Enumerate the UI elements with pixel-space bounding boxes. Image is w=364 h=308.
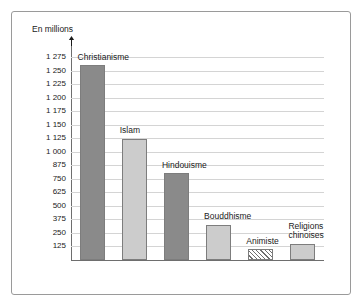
bar-label: Bouddhisme — [204, 212, 251, 222]
bar-label: Hindouisme — [162, 161, 207, 171]
gridline — [71, 246, 324, 247]
gridline — [71, 152, 324, 153]
y-axis-tick-label: 625 — [53, 188, 66, 196]
y-axis-tick-label: 1 250 — [46, 67, 66, 75]
y-axis-tick-label: 1 225 — [46, 80, 66, 88]
chart-frame: En millions 1 2751 2501 2251 2001 1751 1… — [11, 11, 351, 295]
bar-label: Religionschinoises — [288, 222, 323, 241]
y-axis-tick-label: 1 125 — [46, 134, 66, 142]
gridline — [71, 98, 324, 99]
y-axis-tick-label: 750 — [53, 175, 66, 183]
gridline — [71, 179, 324, 180]
gridline — [71, 219, 324, 220]
x-axis-baseline — [71, 260, 324, 261]
y-axis-tick-label: 1 150 — [46, 121, 66, 129]
y-axis-tick-label: 1 200 — [46, 94, 66, 102]
bar-hindouisme — [164, 173, 189, 260]
gridline — [71, 125, 324, 126]
y-axis-tick-label: 125 — [53, 242, 66, 250]
gridline — [71, 111, 324, 112]
bar-religions — [290, 244, 315, 260]
y-axis-tick-label: 1 275 — [46, 53, 66, 61]
gridline — [71, 192, 324, 193]
y-axis-tick-label: 500 — [53, 202, 66, 210]
gridline — [71, 206, 324, 207]
bar-islam — [122, 139, 147, 260]
bar-label: Animiste — [246, 237, 279, 247]
gridline — [71, 233, 324, 234]
bar-label: Christianisme — [78, 53, 130, 63]
y-axis-tick-label: 1 175 — [46, 107, 66, 115]
plot-area: ChristianismeIslamHindouismeBouddhismeAn… — [71, 49, 324, 260]
gridline — [71, 84, 324, 85]
y-axis-tick-label: 875 — [53, 161, 66, 169]
y-axis-tick-label: 375 — [53, 215, 66, 223]
bar-christianisme — [80, 65, 105, 260]
y-axis-tick-labels: 1 2751 2501 2251 2001 1751 1501 1251 000… — [12, 12, 66, 296]
gridline — [71, 71, 324, 72]
y-axis-tick-label: 1 000 — [46, 148, 66, 156]
y-axis-tick-label: 250 — [53, 229, 66, 237]
bar-animiste — [248, 249, 273, 260]
bar-chart: En millions 1 2751 2501 2251 2001 1751 1… — [12, 12, 352, 296]
gridline — [71, 138, 324, 139]
bar-label: Islam — [120, 126, 140, 136]
bar-bouddhisme — [206, 225, 231, 260]
